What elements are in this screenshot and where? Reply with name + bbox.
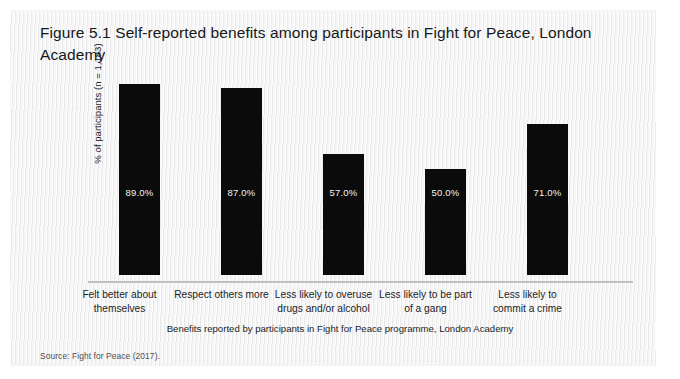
bar-less-likely-to-commit-a-crime[interactable]: 71.0% [527, 124, 568, 275]
plot-area: 89.0% 87.0% 57.0% 50.0% 71.0 [88, 70, 633, 275]
tick-label-line-1: Felt better about [82, 289, 156, 300]
figure-title: Figure 5.1 Self-reported benefits among … [40, 22, 600, 66]
bar-value-label: 50.0% [425, 187, 466, 198]
x-axis-caption: Benefits reported by participants in Fig… [50, 323, 630, 334]
bar-group-3: 57.0% [292, 70, 395, 275]
bar-less-likely-to-overuse-drugs-alcohol[interactable]: 57.0% [323, 154, 364, 275]
tick-label-line-1: Less likely to overuse [275, 289, 372, 300]
bar-series: 89.0% 87.0% 57.0% 50.0% 71.0 [88, 70, 633, 275]
bar-group-2: 87.0% [190, 70, 293, 275]
bar-group-5: 71.0% [496, 70, 599, 275]
bar-value-label: 71.0% [527, 187, 568, 198]
bar-respect-others-more[interactable]: 87.0% [221, 88, 262, 275]
tick-label-line-1: Respect others more [174, 289, 269, 300]
tick-label-line-2: themselves [94, 303, 146, 314]
figure-panel: Figure 5.1 Self-reported benefits among … [10, 10, 656, 366]
tick-label-line-2: commit a crime [493, 303, 562, 314]
bar-value-label: 89.0% [119, 187, 160, 198]
x-axis-line [88, 281, 633, 283]
bar-less-likely-to-be-part-of-a-gang[interactable]: 50.0% [425, 169, 466, 275]
bar-felt-better-about-themselves[interactable]: 89.0% [119, 84, 160, 275]
bar-value-label: 87.0% [221, 187, 262, 198]
bar-group-4: 50.0% [394, 70, 497, 275]
tick-label-line-1: Less likely to be part [379, 289, 472, 300]
source-note: Source: Fight for Peace (2017). [40, 351, 160, 361]
bar-group-1: 89.0% [88, 70, 191, 275]
x-axis-tick-label-5: Less likely to commit a crime [465, 288, 590, 315]
tick-label-line-2: of a gang [404, 303, 447, 314]
bar-value-label: 57.0% [323, 187, 364, 198]
tick-label-line-1: Less likely to [498, 289, 556, 300]
tick-label-line-2: drugs and/or alcohol [277, 303, 369, 314]
